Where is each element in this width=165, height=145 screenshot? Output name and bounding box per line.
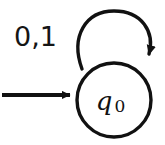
automaton-diagram: q 0 0,1 <box>0 0 165 145</box>
state-label-q0-main: q <box>96 86 113 116</box>
self-loop-arc <box>78 11 150 69</box>
automaton-canvas: q 0 0,1 <box>0 0 165 145</box>
transition-self-loop-q0 <box>78 11 150 69</box>
state-label-q0-subscript: 0 <box>115 96 126 116</box>
state-q0: q 0 <box>77 63 151 137</box>
transition-label-0-1: 0,1 <box>14 21 57 52</box>
